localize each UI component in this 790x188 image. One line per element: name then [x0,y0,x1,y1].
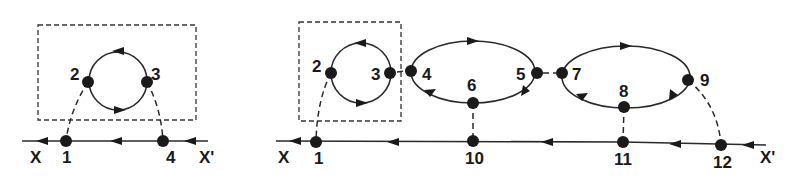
arrow-icon [742,141,754,149]
node-7 [556,67,568,79]
node-11 [617,136,629,148]
node-label-4: 4 [166,148,176,167]
dashed-line [397,71,405,72]
right-diagram: X 1 2 3 4 5 6 7 8 9 10 11 12 X' [276,22,775,172]
arrow-icon [620,42,632,50]
arrow-icon [184,137,196,145]
dashed-line [147,82,163,141]
node-5 [531,67,543,79]
loop [89,52,147,110]
axis-line [276,141,766,145]
node-label-8: 8 [619,82,628,101]
node-3 [384,67,396,79]
node-label-2: 2 [312,57,321,76]
arrow-icon [354,39,366,47]
node-1 [60,135,72,147]
arrow-icon [114,106,126,114]
dashed-box [38,25,196,120]
node-label-6: 6 [467,76,476,95]
node-label-9: 9 [700,71,709,90]
node-label-11: 11 [614,150,632,169]
node-2 [82,76,94,88]
axis-label-x: X [278,148,290,167]
node-label-5: 5 [516,65,525,84]
node-label-1: 1 [62,148,71,167]
node-12 [715,139,727,151]
arrow-icon [467,37,479,45]
left-diagram: X 1 2 3 4 X' [22,25,214,167]
dashed-line [316,73,331,142]
node-label-12: 12 [713,153,732,172]
node-label-7: 7 [572,65,581,84]
node-label-1: 1 [314,149,323,168]
node-label-4: 4 [422,65,432,84]
arrow-icon [289,137,301,145]
arrow-icon [36,137,48,145]
loop [331,43,391,103]
feynman-diagrams: X 1 2 3 4 X' [0,0,790,188]
arrow-icon [110,137,122,145]
node-label-3: 3 [151,65,160,84]
node-4 [405,65,417,77]
dashed-line [66,82,88,141]
node-2 [325,67,337,79]
node-6 [467,97,479,109]
node-1 [310,136,322,148]
node-label-3: 3 [371,65,380,84]
axis-label-x: X [30,148,42,167]
axis-label-x-prime: X' [760,148,775,167]
arrow-icon [387,138,399,146]
arrow-icon [356,99,368,107]
node-label-2: 2 [70,65,79,84]
axis-label-x-prime: X' [199,148,214,167]
node-10 [467,135,479,147]
arrow-icon [112,47,124,55]
node-4 [157,135,169,147]
arrow-icon [541,138,553,146]
node-9 [682,74,694,86]
arrow-icon [669,140,681,148]
node-8 [618,101,630,113]
node-label-10: 10 [465,149,484,168]
